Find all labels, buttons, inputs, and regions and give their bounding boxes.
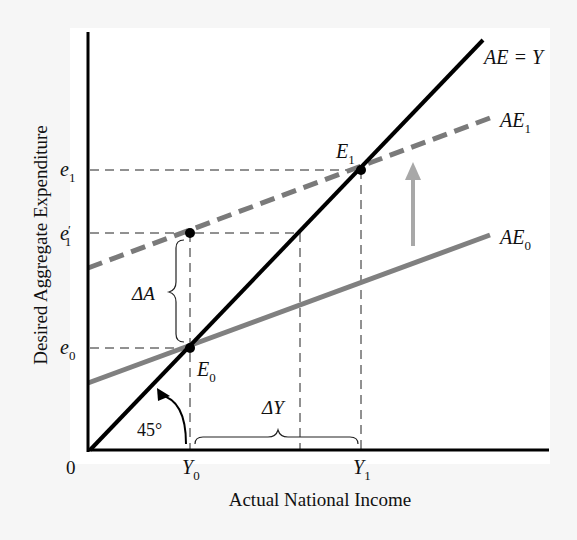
label-e1: E1 bbox=[335, 140, 355, 167]
ytick-e1-prime: e′1 bbox=[60, 222, 71, 249]
label-e0: E0 bbox=[196, 358, 216, 385]
ae-equals-y-line bbox=[90, 40, 483, 450]
origin-label: 0 bbox=[66, 457, 76, 478]
delta-y-brace bbox=[195, 430, 358, 444]
delta-a-label: ΔA bbox=[131, 283, 155, 304]
label-ae0: AE0 bbox=[498, 226, 531, 253]
label-ae-equals-y: AE = Y bbox=[482, 46, 545, 68]
label-ae1: AE1 bbox=[498, 109, 531, 136]
xtick-y1: Y1 bbox=[353, 456, 371, 483]
angle-label: 45° bbox=[137, 420, 162, 440]
ytick-e0: e0 bbox=[60, 336, 75, 363]
point-e0 bbox=[185, 343, 195, 353]
diagram-canvas: AE = Y AE1 AE0 E1 E0 e1 e′1 e0 0 Y0 Y1 4… bbox=[0, 0, 577, 540]
xtick-y0: Y0 bbox=[182, 456, 200, 483]
ae1-line bbox=[88, 118, 490, 268]
ae0-line bbox=[88, 235, 490, 383]
x-axis-title: Actual National Income bbox=[229, 489, 412, 510]
point-e1-prime bbox=[185, 228, 195, 238]
keynesian-cross-diagram: AE = Y AE1 AE0 E1 E0 e1 e′1 e0 0 Y0 Y1 4… bbox=[0, 0, 577, 540]
y-axis-title: Desired Aggregate Expenditure bbox=[30, 125, 51, 365]
delta-a-brace bbox=[169, 240, 184, 342]
shift-arrow-icon bbox=[405, 162, 421, 246]
ytick-e1: e1 bbox=[60, 158, 75, 185]
delta-y-label: ΔY bbox=[261, 397, 286, 418]
point-e1 bbox=[356, 165, 366, 175]
